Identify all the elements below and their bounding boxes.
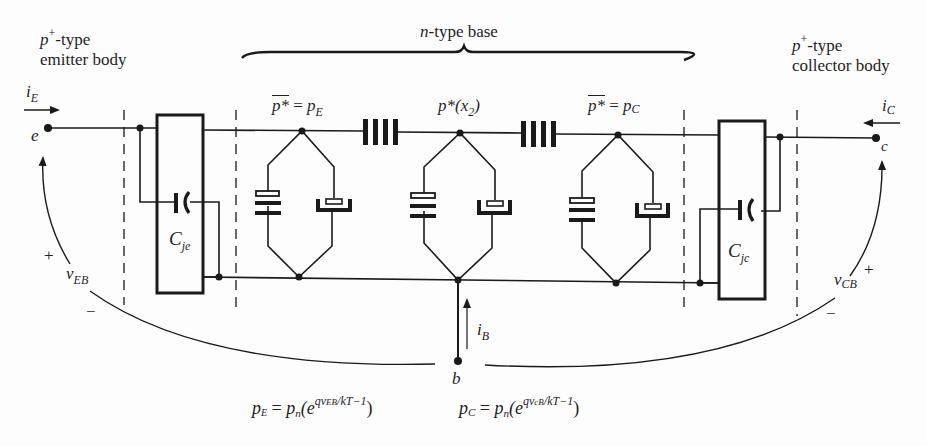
region-boundaries [124,110,797,316]
veb-label: vEB [66,264,88,284]
base-current-label: iB [477,320,489,340]
base-resistor-1 [363,119,398,145]
base-region-label: n-type base [420,22,498,42]
node-label-collector-edge: p* = pC [588,96,640,116]
base-resistor-2 [521,121,556,147]
emitter-base-voltage-arc [43,158,435,364]
base-terminal-label: b [452,369,461,389]
base-terminal [454,280,462,365]
emitter-region-label: p+-type emitter body [40,30,126,69]
vcb-minus-sign: − [826,304,836,324]
shunt-branch-middle [410,130,510,284]
emitter-terminal [44,124,52,132]
emitter-current-label: iE [26,82,38,102]
collector-junction-capacitance-label: Cjc [728,240,749,262]
transistor-model-diagram: p+-type emitter body n-type base p+-type… [0,0,927,446]
veb-minus-sign: − [86,302,96,322]
emitter-junction-box [137,115,223,293]
circuit-drawing [0,0,927,446]
shunt-branch-left [255,128,350,281]
collector-region-label: p+-type collector body [792,36,890,75]
collector-terminal-label: c [881,138,888,155]
emitter-boundary-equation: pE = pn(eqvEB/kT−1) [252,398,373,419]
node-label-midpoint: p*(x2) [438,96,480,116]
emitter-junction-capacitance-label: Cje [169,228,190,250]
shunt-branch-right [569,132,668,287]
base-brace [242,46,694,60]
collector-junction-box [697,121,784,299]
vcb-plus-sign: + [864,260,874,280]
veb-plus-sign: + [44,246,54,266]
collector-boundary-equation: pC = pn(eqvcB/kT−1) [459,398,579,419]
emitter-terminal-label: e [31,126,39,146]
collector-current-label: iC [882,96,895,116]
collector-terminal [872,134,880,142]
vcb-label: vCB [834,270,857,290]
node-label-emitter-edge: p* = pE [272,96,323,116]
bottom-rail [204,277,720,283]
